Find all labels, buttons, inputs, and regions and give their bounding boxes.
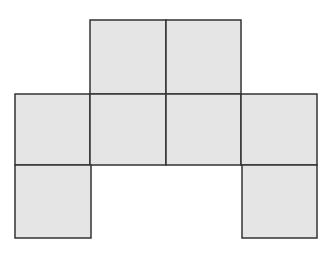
square-r2-c3 xyxy=(242,165,317,238)
square-net-diagram xyxy=(0,0,336,257)
square-r0-c2 xyxy=(166,20,241,94)
square-r1-c2 xyxy=(166,94,241,165)
square-r1-c3 xyxy=(241,94,317,165)
square-r1-c0 xyxy=(15,94,90,165)
square-r2-c0 xyxy=(15,165,91,238)
square-r1-c1 xyxy=(90,94,166,165)
square-r0-c1 xyxy=(90,20,166,94)
